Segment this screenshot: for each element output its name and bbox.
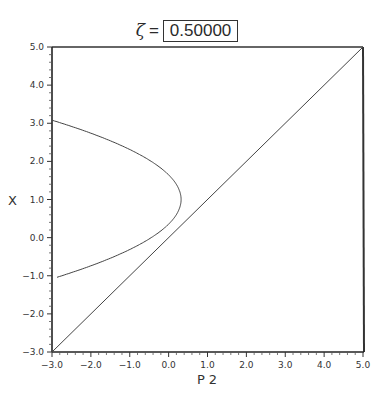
x-tick-label: 0.0 bbox=[161, 360, 176, 370]
x-tick-label: −2.0 bbox=[80, 360, 102, 370]
x-tick-label: 4.0 bbox=[317, 360, 332, 370]
x-axis-label: P 2 bbox=[197, 372, 217, 387]
x-tick-label: 1.0 bbox=[200, 360, 215, 370]
y-tick-label: 1.0 bbox=[30, 195, 45, 205]
x-tick-label: 2.0 bbox=[239, 360, 254, 370]
y-tick-label: 5.0 bbox=[30, 42, 45, 52]
data-series bbox=[52, 47, 363, 352]
y-tick-label: −3.0 bbox=[22, 347, 44, 357]
y-tick-label: 3.0 bbox=[30, 118, 45, 128]
y-tick-label: −2.0 bbox=[22, 309, 44, 319]
y-tick-label: 4.0 bbox=[30, 80, 45, 90]
y-tick-label: −1.0 bbox=[22, 271, 44, 281]
plot-area: −3.0−2.0−1.00.01.02.03.04.05.0−3.0−2.0−1… bbox=[0, 0, 374, 408]
y-axis-label: X bbox=[8, 193, 17, 208]
y-tick-label: 0.0 bbox=[30, 233, 45, 243]
x-tick-label: 5.0 bbox=[356, 360, 371, 370]
x-tick-label: −3.0 bbox=[41, 360, 63, 370]
x-tick-label: 3.0 bbox=[278, 360, 293, 370]
x-tick-label: −1.0 bbox=[119, 360, 141, 370]
diagonal-line bbox=[52, 47, 363, 352]
frame-right bbox=[363, 47, 364, 352]
parabolic-curve bbox=[52, 120, 181, 277]
y-tick-label: 2.0 bbox=[30, 156, 45, 166]
